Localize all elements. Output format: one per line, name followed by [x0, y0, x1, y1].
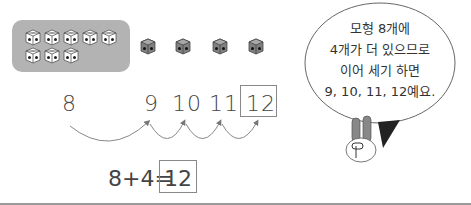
bubble-line: 모형 8개에: [310, 18, 450, 39]
bubble-line: 4개가 더 있으므로: [310, 39, 450, 60]
counting-arrows: [0, 110, 300, 170]
bubble-line: 9, 10, 11, 12예요.: [310, 81, 450, 102]
bottom-divider: [0, 203, 471, 205]
bubble-line: 이어 세기 하면: [310, 60, 450, 81]
equation-answer: 12: [164, 166, 192, 191]
